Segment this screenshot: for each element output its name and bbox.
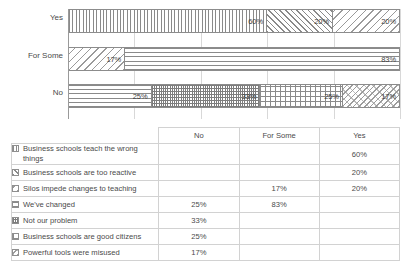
- bar-segment-horizontal-lines: 83%: [125, 48, 399, 70]
- table-cell-no: [159, 181, 239, 197]
- segment-value-label: 17%: [106, 55, 124, 64]
- legend-swatch-diagonal-forward-hatch-icon: [12, 185, 19, 192]
- table-row-label-cell: Business schools teach the wrong things: [12, 144, 159, 165]
- table-row: Business schools are too reactive20%: [12, 165, 400, 181]
- segment-value-label: 25%: [324, 92, 342, 101]
- table-row: Not our problem33%: [12, 213, 400, 229]
- category-axis-line: [68, 9, 69, 119]
- category-label-no: No: [53, 88, 63, 97]
- category-label-yes: Yes: [50, 13, 63, 22]
- bar-no: 25%33%25%17%: [68, 84, 400, 108]
- legend-swatch-diagonal-back-hatch-icon: [12, 169, 19, 176]
- segment-value-label: 60%: [248, 17, 266, 26]
- bar-segment-diagonal-forward-hatch: 17%: [69, 48, 125, 70]
- legend-swatch-diagonal-dots-icon: [12, 249, 19, 256]
- table-cell-yes: [319, 213, 399, 229]
- table-cell-no: 25%: [159, 197, 239, 213]
- table-cell-yes: 20%: [319, 181, 399, 197]
- segment-value-label: 83%: [381, 55, 399, 64]
- table-cell-for-some: [239, 144, 319, 165]
- bar-segment-diagonal-back-hatch: 20%: [267, 10, 333, 32]
- bar-segment-vertical-lines: 60%: [69, 10, 267, 32]
- legend-swatch-vertical-lines-icon: [12, 145, 19, 152]
- table-cell-for-some: 17%: [239, 181, 319, 197]
- table-cell-no: 33%: [159, 213, 239, 229]
- table-cell-for-some: [239, 213, 319, 229]
- legend-label: Powerful tools were misused: [23, 248, 120, 258]
- table-header-blank: [12, 128, 159, 144]
- table-row-label-cell: Business schools are good citizens: [12, 229, 159, 245]
- table-cell-no: [159, 165, 239, 181]
- table-cell-yes: 20%: [319, 165, 399, 181]
- table-cell-yes: [319, 229, 399, 245]
- legend-label: We've changed: [23, 200, 75, 210]
- bar-segment-diagonal-dots: 17%: [343, 85, 399, 107]
- chart-plot-area: 60%20%20%17%83%25%33%25%17%: [68, 9, 400, 119]
- table-row: Business schools are good citizens25%: [12, 229, 400, 245]
- segment-value-label: 20%: [381, 17, 399, 26]
- table-cell-for-some: [239, 165, 319, 181]
- table-header-no: No: [159, 128, 239, 144]
- table-row: We've changed25%83%: [12, 197, 400, 213]
- table-row-label-cell: Not our problem: [12, 213, 159, 229]
- bar-for-some: 17%83%: [68, 47, 400, 71]
- table-header-row: No For Some Yes: [12, 128, 400, 144]
- legend-label: Business schools are too reactive: [23, 168, 136, 178]
- legend-data-table: No For Some Yes Business schools teach t…: [11, 127, 400, 261]
- table-cell-yes: [319, 197, 399, 213]
- table-cell-yes: [319, 245, 399, 261]
- table-row-label-cell: We've changed: [12, 197, 159, 213]
- stacked-bar-chart: YesFor SomeNo 60%20%20%17%83%25%33%25%17…: [0, 0, 407, 126]
- bar-segment-cross-hatch-grid: 25%: [260, 85, 343, 107]
- legend-label: Silos impede changes to teaching: [23, 184, 137, 194]
- table-cell-no: [159, 144, 239, 165]
- legend-label: Not our problem: [23, 216, 77, 226]
- bar-segment-fine-dots: 33%: [152, 85, 261, 107]
- bar-segment-diagonal-forward-hatch: 20%: [333, 10, 399, 32]
- table-row: Business schools teach the wrong things6…: [12, 144, 400, 165]
- table-row-label-cell: Powerful tools were misused: [12, 245, 159, 261]
- segment-value-label: 20%: [314, 17, 332, 26]
- bar-segment-horizontal-lines: 25%: [69, 85, 152, 107]
- table-row-label-cell: Silos impede changes to teaching: [12, 181, 159, 197]
- legend-swatch-fine-dots-icon: [12, 217, 19, 224]
- gridline-100: [400, 9, 401, 119]
- table-header-for-some: For Some: [239, 128, 319, 144]
- table-cell-no: 25%: [159, 229, 239, 245]
- table-cell-for-some: [239, 245, 319, 261]
- segment-value-label: 33%: [242, 92, 260, 101]
- legend-swatch-cross-hatch-grid-icon: [12, 233, 19, 240]
- table-header-yes: Yes: [319, 128, 399, 144]
- segment-value-label: 25%: [133, 92, 151, 101]
- category-axis-labels: YesFor SomeNo: [0, 9, 63, 119]
- table-cell-for-some: [239, 229, 319, 245]
- table-cell-no: 17%: [159, 245, 239, 261]
- segment-value-label: 17%: [381, 92, 399, 101]
- table-cell-yes: 60%: [319, 144, 399, 165]
- table-row: Silos impede changes to teaching17%20%: [12, 181, 400, 197]
- table-row-label-cell: Business schools are too reactive: [12, 165, 159, 181]
- category-label-for-some: For Some: [28, 51, 63, 60]
- table-cell-for-some: 83%: [239, 197, 319, 213]
- table-row: Powerful tools were misused17%: [12, 245, 400, 261]
- bar-yes: 60%20%20%: [68, 9, 400, 33]
- legend-swatch-horizontal-lines-icon: [12, 201, 19, 208]
- legend-label: Business schools teach the wrong things: [23, 144, 158, 164]
- legend-label: Business schools are good citizens: [23, 232, 141, 242]
